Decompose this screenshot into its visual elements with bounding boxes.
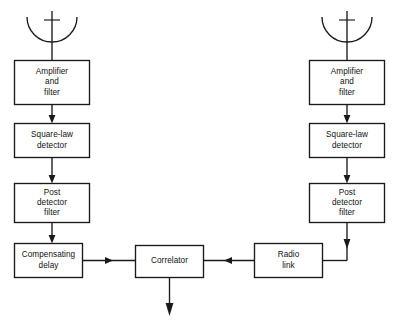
left-square-law-detector-box [15, 124, 90, 158]
right-antenna-icon [322, 11, 372, 60]
right-square-law-to-post-detector-arrow [344, 157, 351, 184]
block-diagram: Amplifier and filter Square-law detector… [0, 0, 395, 323]
left-post-detector-to-compensating-delay-arrow [49, 222, 56, 244]
correlator-box [136, 246, 204, 278]
compensating-delay-box [15, 244, 83, 278]
right-amplifier-filter-box [310, 61, 385, 105]
left-square-law-to-post-detector-arrow [49, 157, 56, 184]
left-amplifier-filter-box [15, 61, 90, 105]
left-antenna-icon [27, 11, 77, 60]
diagram-lines [0, 0, 395, 323]
right-post-detector-to-radio-link-arrow [322, 222, 350, 261]
left-post-detector-filter-box [15, 184, 90, 223]
right-square-law-detector-box [310, 124, 385, 158]
left-amplifier-to-square-law-arrow [49, 104, 56, 124]
correlator-output-arrow [166, 277, 174, 316]
compensating-delay-to-correlator-arrow [82, 257, 135, 264]
right-amplifier-to-square-law-arrow [344, 104, 351, 124]
radio-link-to-correlator-arrow [203, 257, 254, 264]
radio-link-box [255, 244, 323, 278]
right-post-detector-filter-box [310, 184, 385, 223]
